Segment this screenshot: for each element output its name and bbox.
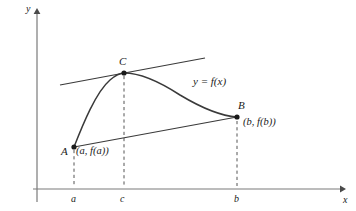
point-marker-c [121,70,126,75]
point-marker-b [234,114,239,119]
point-coord-label-b: (b, f(b)) [243,117,276,128]
x-axis-label: x [343,195,347,205]
point-coord-label-a: (a, f(a)) [76,146,109,157]
point-label-a: A [61,146,68,157]
point-label-b: B [238,100,245,111]
function-equation-label: y = f(x) [193,76,226,87]
secant-line-ab [74,117,237,147]
point-label-c: C [119,56,126,67]
x-tick-label-b: b [234,194,239,204]
tangent-line-at-c [60,58,205,85]
mvt-figure: y x a c b A (a, f(a)) B (b, f(b)) C y = … [0,0,356,211]
x-tick-label-c: c [120,194,124,204]
x-axis-arrow [340,186,346,193]
y-axis-arrow [34,8,41,14]
diagram-canvas [0,0,356,211]
x-tick-label-a: a [71,194,76,204]
y-axis-label: y [26,4,30,14]
